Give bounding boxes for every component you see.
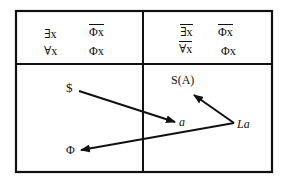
diagram-frame [0, 0, 286, 183]
node-phi: Φ [66, 144, 75, 156]
arrow-La-to-phi [81, 123, 234, 150]
node-s-of-a: S(A) [171, 74, 194, 86]
tl-row2-formula: Φx [89, 45, 104, 57]
tr-row2-quantifier-negated: ∀x [179, 41, 192, 55]
node-a: a [179, 116, 185, 128]
tr-row1-formula-negated: Φx [218, 24, 233, 38]
arrow-s-to-a [79, 91, 175, 122]
tr-row1-quantifier-negated: ∃x [180, 24, 193, 38]
tr-row2-formula: Φx [221, 45, 236, 57]
node-s-barred: $ [66, 82, 73, 94]
arrow-La-to-S-of-A [194, 95, 234, 123]
node-La: La [237, 118, 250, 130]
tl-row2-quantifier: ∀x [44, 45, 57, 57]
logic-diagram: ∃x Φx ∀x Φx ∃x Φx ∀x Φx $ a Φ S(A) La [0, 0, 286, 183]
tl-row1-quantifier: ∃x [44, 28, 57, 40]
tl-row1-formula-negated: Φx [89, 24, 104, 38]
